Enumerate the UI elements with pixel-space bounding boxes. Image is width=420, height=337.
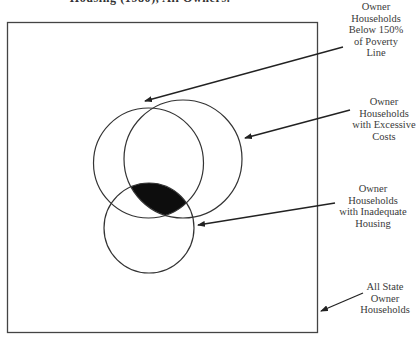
- label-inadequate-housing: Owner Households with Inadequate Housing: [333, 183, 413, 229]
- arrow-excessive-costs: [245, 110, 350, 138]
- arrow-poverty: [145, 47, 343, 101]
- label-universe: All State Owner Households: [353, 281, 417, 316]
- universe-box: [8, 23, 318, 333]
- label-excessive-costs: Owner Households with Excessive Costs: [345, 96, 420, 142]
- label-poverty: Owner Households Below 150% of Poverty L…: [336, 1, 416, 59]
